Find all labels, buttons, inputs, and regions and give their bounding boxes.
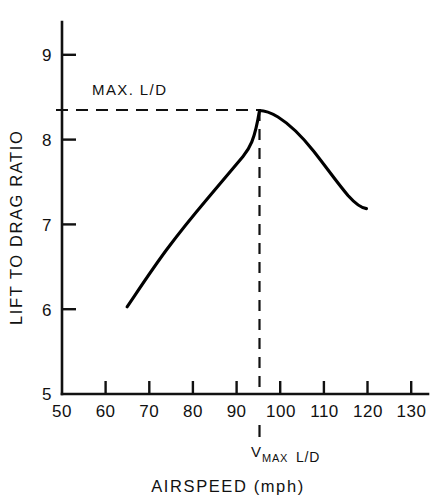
vmax-ld-label-v: V <box>251 443 262 460</box>
lift-drag-curve-group <box>127 111 366 307</box>
y-tick-label-6: 6 <box>42 301 52 320</box>
vmax-ld-annotation: V MAX L/D <box>251 443 320 465</box>
guidelines <box>56 110 261 437</box>
x-axis-tick-labels: 50 60 70 80 90 100 110 120 130 <box>52 402 426 421</box>
x-tick-label-90: 90 <box>227 402 247 421</box>
x-tick-label-120: 120 <box>353 402 383 421</box>
x-tick-label-100: 100 <box>266 402 296 421</box>
lift-drag-curve <box>127 111 366 307</box>
x-tick-label-50: 50 <box>52 402 72 421</box>
x-tick-label-80: 80 <box>183 402 203 421</box>
y-tick-label-8: 8 <box>42 131 52 150</box>
vmax-ld-label-suffix: L/D <box>296 449 320 465</box>
x-tick-label-110: 110 <box>310 402 339 421</box>
x-tick-label-60: 60 <box>96 402 116 421</box>
vmax-ld-label-sub: MAX <box>262 452 288 464</box>
x-axis-title: AIRSPEED (mph) <box>151 477 305 495</box>
max-ld-annotation: MAX. L/D <box>92 81 167 98</box>
y-tick-label-9: 9 <box>42 46 52 65</box>
max-ld-label: MAX. L/D <box>92 81 167 98</box>
y-axis-tick-labels: 9 8 7 6 5 <box>42 46 52 404</box>
y-tick-label-5: 5 <box>42 385 52 404</box>
y-axis-title: LIFT TO DRAG RATIO <box>7 130 25 325</box>
x-tick-label-70: 70 <box>139 402 159 421</box>
axis-lines <box>62 22 428 394</box>
y-axis-ticks <box>62 55 76 309</box>
y-tick-label-7: 7 <box>42 216 52 235</box>
x-tick-label-130: 130 <box>397 402 427 421</box>
lift-to-drag-ratio-chart: 9 8 7 6 5 50 60 70 80 90 100 110 120 13 <box>0 0 433 503</box>
chart-figure: 9 8 7 6 5 50 60 70 80 90 100 110 120 13 <box>0 0 433 503</box>
